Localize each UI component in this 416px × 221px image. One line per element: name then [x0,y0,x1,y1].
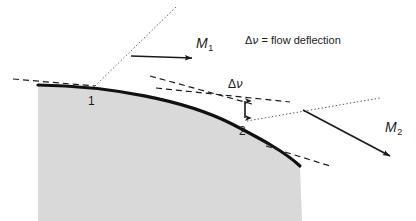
arrow-mach-upstream [131,56,192,58]
label-point-two: 2 [239,125,246,137]
nu-symbol: ν [236,77,243,91]
solid-body-fill [38,85,302,221]
arrow-mach-downstream [303,110,390,156]
diagram-canvas [0,0,416,221]
label-mach-downstream: M2 [385,120,402,134]
label-mach-downstream-symbol: M [385,119,397,135]
flow-deflection-diagram: M1 M2 Δν Δν = flow deflection 1 2 [0,0,416,221]
caption-flow-deflection: Δν = flow deflection [245,35,341,46]
label-mach-upstream-subscript: 1 [208,43,213,53]
mach-line-point-two [247,98,380,121]
horizontal-reference-line-at-two [156,88,290,102]
label-mach-downstream-subscript: 2 [397,127,402,137]
label-mach-upstream-symbol: M [196,35,208,51]
label-point-one: 1 [88,95,95,107]
label-mach-upstream: M1 [196,36,213,50]
caption-text: = flow deflection [259,34,341,46]
label-deflection-angle: Δν [228,78,243,90]
delta-symbol: Δ [228,77,236,91]
mach-line-point-one [95,7,176,86]
